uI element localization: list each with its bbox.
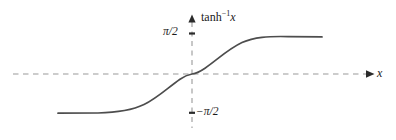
y-axis-title-superscript: −1	[222, 9, 231, 18]
y-axis-arrowhead-icon	[188, 15, 195, 23]
x-axis-arrowhead-icon	[366, 70, 375, 78]
y-axis-title-variable: x	[230, 10, 235, 24]
y-axis-title-function: tanh	[201, 10, 222, 24]
y-tick-label-negative: −π/2	[196, 106, 218, 118]
y-tick-label-positive: π/2	[163, 26, 178, 38]
x-axis-title: x	[377, 67, 382, 79]
y-axis-title: tanh−1x	[201, 11, 236, 23]
inverse-tanh-curve	[58, 37, 322, 114]
figure-container: tanh−1x x π/2 −π/2	[0, 0, 396, 140]
plot-canvas	[0, 0, 396, 140]
